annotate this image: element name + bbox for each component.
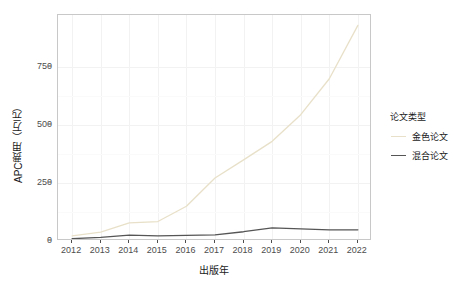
series-line-混合论文	[72, 228, 358, 239]
x-tick-label: 2015	[147, 245, 167, 255]
x-tick-label: 2021	[318, 245, 338, 255]
y-tick-label: 500	[6, 119, 52, 129]
x-tick-mark	[185, 240, 186, 243]
x-tick-label: 2013	[90, 245, 110, 255]
x-tick-mark	[71, 240, 72, 243]
series-line-金色论文	[72, 25, 358, 235]
legend-item-label: 金色论文	[412, 130, 448, 143]
x-tick-label: 2018	[233, 245, 253, 255]
legend: 论文类型 金色论文混合论文	[390, 110, 464, 168]
x-tick-mark	[271, 240, 272, 243]
y-tick-mark	[48, 240, 51, 241]
x-tick-mark	[328, 240, 329, 243]
x-tick-mark	[243, 240, 244, 243]
x-tick-mark	[157, 240, 158, 243]
legend-item-金色论文[interactable]: 金色论文	[390, 130, 464, 143]
y-tick-mark	[48, 124, 51, 125]
x-tick-mark	[128, 240, 129, 243]
legend-key-line-icon	[390, 150, 407, 162]
x-tick-mark	[300, 240, 301, 243]
x-tick-mark	[100, 240, 101, 243]
legend-item-label: 混合论文	[412, 149, 448, 162]
legend-key-line-icon	[390, 131, 407, 143]
x-tick-mark	[214, 240, 215, 243]
x-tick-mark	[357, 240, 358, 243]
legend-title: 论文类型	[390, 110, 464, 123]
legend-items: 金色论文混合论文	[390, 130, 464, 162]
y-tick-label: 0	[6, 235, 52, 245]
y-tick-label: 250	[6, 177, 52, 187]
plot-panel	[57, 14, 371, 240]
chart-container: APC费用（万元） 0250500750 2012201320142015201…	[0, 0, 468, 285]
x-tick-label: 2020	[290, 245, 310, 255]
x-axis-title: 出版年	[57, 262, 371, 277]
legend-item-混合论文[interactable]: 混合论文	[390, 149, 464, 162]
x-tick-label: 2014	[118, 245, 138, 255]
y-tick-mark	[48, 66, 51, 67]
x-tick-label: 2019	[261, 245, 281, 255]
x-tick-label: 2016	[175, 245, 195, 255]
x-axis-ticks: 2012201320142015201620172018201920202021…	[57, 240, 371, 262]
y-tick-mark	[48, 182, 51, 183]
y-tick-label: 750	[6, 61, 52, 71]
plot-lines	[58, 15, 371, 240]
x-tick-label: 2017	[204, 245, 224, 255]
y-axis-ticks: 0250500750	[0, 0, 52, 285]
x-tick-label: 2012	[61, 245, 81, 255]
x-tick-label: 2022	[347, 245, 367, 255]
